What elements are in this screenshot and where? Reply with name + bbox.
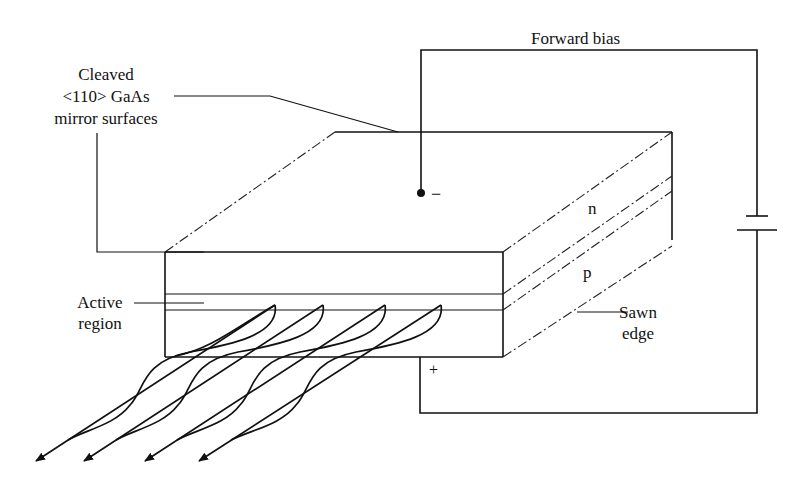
negative-contact-dot	[417, 189, 425, 197]
battery-icon	[737, 216, 777, 230]
svg-text:edge: edge	[622, 324, 654, 343]
mirror-leader-front	[97, 133, 204, 252]
top-left-sawn-edge	[165, 132, 335, 252]
svg-text:Active: Active	[77, 293, 122, 312]
forward-bias-label: Forward bias	[531, 29, 620, 48]
gaas-chip: n p	[165, 132, 672, 357]
laser-beam-4	[199, 305, 441, 461]
p-layer-label: p	[583, 263, 592, 282]
svg-text:region: region	[78, 314, 122, 333]
mirror-leader-top	[174, 96, 398, 132]
svg-text:<110> GaAs: <110> GaAs	[62, 87, 149, 106]
laser-beam-1	[36, 305, 275, 461]
n-layer-label: n	[588, 199, 597, 218]
mirror-label: Cleaved <110> GaAs mirror surfaces	[54, 65, 398, 252]
svg-text:Cleaved: Cleaved	[78, 65, 134, 84]
minus-sign: −	[431, 184, 441, 204]
bottom-wire	[420, 230, 757, 413]
sawn-edge-label: Sawn edge	[577, 303, 657, 343]
bias-circuit: − + Forward bias	[417, 29, 777, 413]
top-wire	[421, 50, 757, 216]
plus-sign: +	[429, 361, 438, 378]
svg-text:mirror surfaces: mirror surfaces	[54, 109, 157, 128]
active-region-label: Active region	[77, 293, 204, 333]
laser-diode-diagram: n p − + Forward bias Cleaved <110> GaAs …	[0, 0, 800, 479]
right-top-sawn-edge	[503, 132, 672, 252]
